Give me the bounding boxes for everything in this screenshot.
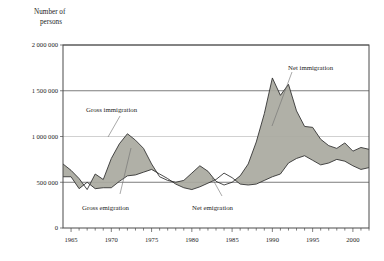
x-tick-label-1980: 1980 [185,236,199,243]
net-immigration-band [63,164,84,189]
immigration-emigration-line-chart: Number ofpersons0500 0001 000 0001 500 0… [0,0,384,261]
annotation-leader-2 [212,178,222,196]
y-axis-title-line2: persons [40,18,62,26]
x-tick-label-2000: 2000 [346,236,360,243]
y-tick-label-2000000: 2 000 000 [32,41,59,48]
y-tick-label-500000: 500 000 [37,179,59,186]
y-tick-label-1500000: 1 500 000 [32,87,59,94]
y-tick-label-0: 0 [55,224,59,231]
annotation-label-net-emigration: Net emigration [192,204,234,211]
x-tick-label-1985: 1985 [226,236,240,243]
x-tick-label-1990: 1990 [266,236,280,243]
plot-area [63,78,369,190]
annotation-label-gross-emigration: Gross emigration [82,204,130,211]
y-tick-label-1000000: 1 000 000 [32,133,59,140]
x-tick-label-1970: 1970 [105,236,119,243]
annotation-label-net-immigration: Net immigration [288,64,334,71]
net-immigration-band [172,166,215,190]
annotation-label-gross-immigration: Gross immigration [86,106,138,113]
chart-container: Number ofpersons0500 0001 000 0001 500 0… [0,0,384,261]
x-tick-label-1965: 1965 [64,236,78,243]
x-tick-label-1975: 1975 [145,236,159,243]
annotation-leader-0 [108,116,120,137]
x-tick-label-1995: 1995 [306,236,320,243]
net-immigration-band [235,78,369,185]
y-axis-title-line1: Number of [34,8,66,16]
